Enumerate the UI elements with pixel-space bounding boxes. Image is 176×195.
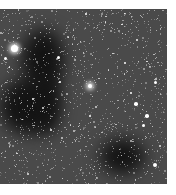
star [134, 102, 138, 106]
star [153, 163, 157, 167]
star [11, 45, 18, 52]
star [154, 81, 157, 84]
star [145, 114, 149, 118]
star-noise [0, 9, 167, 184]
star [57, 56, 60, 59]
star [4, 57, 7, 60]
star [142, 124, 145, 127]
star-field-image [0, 9, 167, 184]
